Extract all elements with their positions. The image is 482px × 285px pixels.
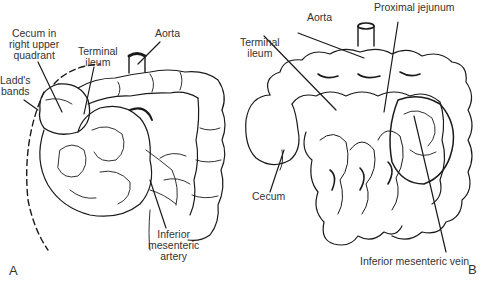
label-line: artery	[148, 251, 199, 262]
panel-letter-b: B	[468, 262, 477, 277]
label-inferior-mesenteric-artery: Inferior mesenteric artery	[148, 229, 199, 262]
anatomy-figure: Cecum in right upper quadrant Terminal i…	[0, 0, 482, 285]
label-line: bands	[0, 86, 31, 97]
label-line: ileum	[240, 48, 280, 59]
label-line: ileum	[78, 57, 118, 68]
label-terminal-ileum-a: Terminal ileum	[78, 46, 118, 68]
label-aorta-a: Aorta	[155, 28, 180, 39]
label-cecum-b: Cecum	[252, 191, 285, 202]
label-ladds-bands: Ladd's bands	[0, 75, 31, 97]
label-cecum-rug: Cecum in right upper quadrant	[9, 28, 59, 61]
panel-letter-a: A	[9, 263, 18, 278]
label-proximal-jejunum: Proximal jejunum	[374, 2, 455, 13]
label-inferior-mesenteric-vein: Inferior mesenteric vein	[360, 256, 469, 267]
label-line: quadrant	[9, 50, 59, 61]
panel-a-drawing	[24, 42, 225, 250]
label-aorta-b: Aorta	[307, 12, 332, 23]
label-terminal-ileum-b: Terminal ileum	[240, 37, 280, 59]
